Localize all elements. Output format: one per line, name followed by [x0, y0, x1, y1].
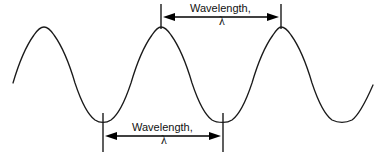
top-left-arrowhead — [163, 13, 175, 21]
bottom-left-arrowhead — [105, 132, 117, 140]
sine-wave-path — [13, 27, 373, 122]
wave-diagram: Wavelength, λ Wavelength, λ — [0, 0, 385, 161]
top-wavelength-label: Wavelength, — [190, 2, 251, 14]
wave-diagram-canvas — [0, 0, 385, 161]
bottom-wavelength-label: Wavelength, — [132, 121, 193, 133]
bottom-right-arrowhead — [209, 132, 221, 140]
top-right-arrowhead — [267, 13, 279, 21]
bottom-lambda-symbol: λ — [161, 134, 167, 146]
top-lambda-symbol: λ — [219, 15, 225, 27]
